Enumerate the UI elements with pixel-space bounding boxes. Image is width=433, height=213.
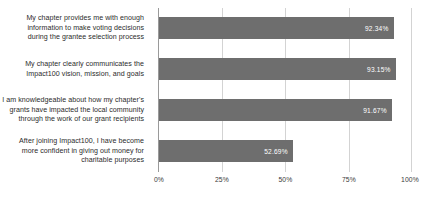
category-label-row: My chapter provides me with enough infor…	[0, 8, 152, 49]
tick-label: 75%	[342, 176, 356, 183]
category-label-row: I am knowledgeable about how my chapter'…	[0, 90, 152, 131]
bar-value-label: 92.34%	[365, 25, 394, 32]
bar: 93.15%	[159, 58, 396, 80]
bar: 91.67%	[159, 99, 392, 121]
category-label: I am knowledgeable about how my chapter'…	[2, 96, 152, 125]
category-axis-labels: My chapter provides me with enough infor…	[0, 8, 152, 172]
bar: 52.69%	[159, 140, 293, 162]
plot-area: 92.34% 93.15% 91.67% 52.69%	[158, 8, 412, 172]
bar-chart: My chapter provides me with enough infor…	[0, 0, 433, 213]
gridline-100	[411, 8, 412, 172]
category-label: After joining Impact100, I have become m…	[19, 137, 152, 166]
bar-value-label: 52.69%	[264, 148, 293, 155]
tick-label: 50%	[278, 176, 292, 183]
bar: 92.34%	[159, 17, 394, 39]
value-axis-tick-labels: 0% 25% 50% 75% 100%	[158, 176, 412, 190]
category-label: My chapter clearly communicates the Impa…	[25, 60, 152, 79]
category-label: My chapter provides me with enough infor…	[26, 14, 152, 43]
bar-value-label: 91.67%	[363, 107, 392, 114]
category-label-row: My chapter clearly communicates the Impa…	[0, 49, 152, 90]
tick-label: 25%	[215, 176, 229, 183]
tick-label: 0%	[154, 176, 164, 183]
bar-value-label: 93.15%	[367, 66, 396, 73]
tick-label: 100%	[401, 176, 419, 183]
category-label-row: After joining Impact100, I have become m…	[0, 131, 152, 172]
